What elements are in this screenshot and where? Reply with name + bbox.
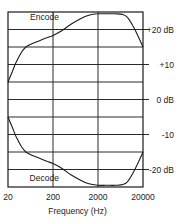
- curve-encode: [8, 14, 143, 82]
- x-tick-label: 200: [46, 192, 60, 202]
- horizontal-gridlines: [8, 30, 149, 170]
- frequency-response-chart: EncodeDecode +20 dB+100 dB-10-20 dB 2020…: [0, 0, 185, 224]
- x-tick-label: 2000: [89, 192, 108, 202]
- y-tick-label: +10: [160, 60, 175, 70]
- y-tick-labels: +20 dB+100 dB-10-20 dB: [147, 25, 175, 175]
- curve-decode: [8, 117, 143, 185]
- annotation-encode: Encode: [30, 12, 59, 22]
- x-tick-label: 20: [3, 192, 13, 202]
- curve-annotations: EncodeDecode: [30, 12, 60, 183]
- y-tick-label: -20 dB: [149, 165, 174, 175]
- x-tick-labels: 20200200020000: [3, 192, 155, 202]
- y-tick-label: +20 dB: [147, 25, 175, 35]
- x-axis-label: Frequency (Hz): [48, 206, 107, 216]
- annotation-decode: Decode: [30, 173, 60, 183]
- y-tick-label: 0 dB: [157, 95, 175, 105]
- y-tick-label: -10: [162, 130, 175, 140]
- x-tick-label: 20000: [131, 192, 155, 202]
